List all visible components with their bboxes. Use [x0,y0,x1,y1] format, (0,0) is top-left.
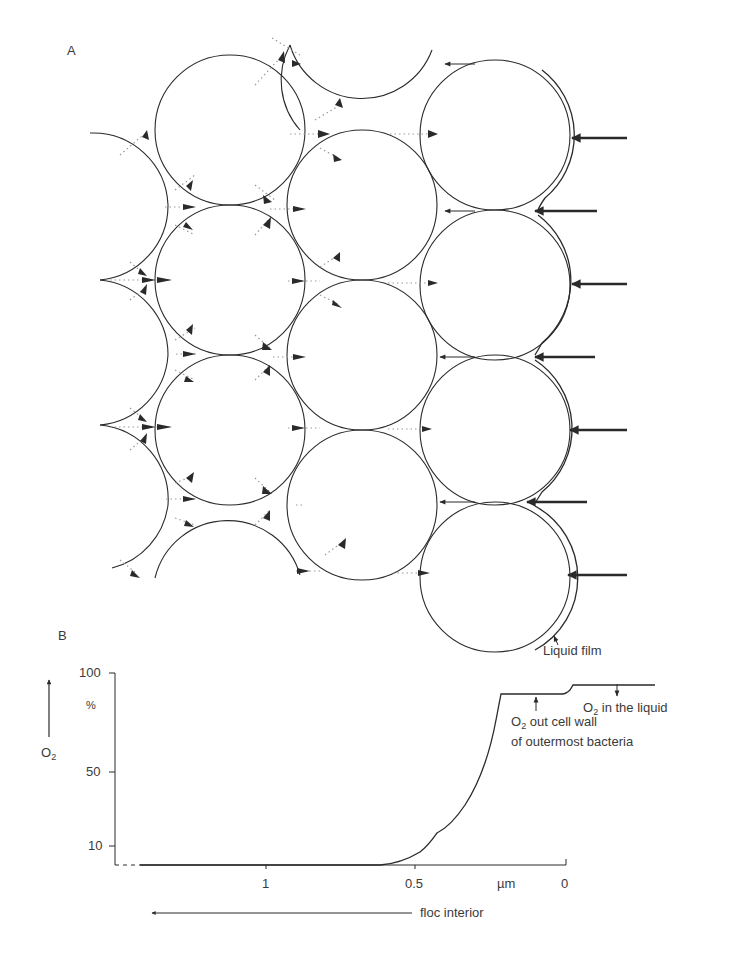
cellwall-o2-annotation: O2 out cell wall of outermost bacteria [511,714,633,749]
floc-cells [90,45,570,652]
y-tick-label-50: 50 [86,764,100,779]
panel-a-label: A [67,43,76,58]
x-axis [115,859,566,869]
panel-b-label: B [58,628,67,643]
cellwall-o2-line1: O2 out cell wall [511,714,633,734]
y-axis-title-sub: 2 [51,752,56,762]
bacterium-cell [155,205,305,355]
floc-interior-label: floc interior [420,905,484,920]
partial-cell-bottom-col1 [155,521,300,578]
y-axis-title-main: O [41,745,51,760]
cellwall-o2-line2: of outermost bacteria [511,734,633,749]
y-tick-label-100: 100 [79,665,101,680]
bacterium-cell [155,55,305,205]
y-axis-title: O2 [41,745,56,762]
bacterium-cell [420,502,570,652]
bacterium-cell [287,280,437,430]
diffusion-arrows [440,64,475,502]
bacterium-cell [155,355,305,505]
dotted-diffusion-arrows [110,38,435,573]
x-tick-label-1: 1 [262,876,269,891]
partial-cell-left-top-lower [100,205,168,280]
bacterium-cell [420,60,570,210]
o2-profile-curve [140,685,655,865]
partial-cell-top-col2 [290,45,432,98]
y-tick-label-10: 10 [88,838,102,853]
bacterium-cell [287,130,437,280]
x-tick-label-0-5: 0.5 [405,876,423,891]
liquid-film-label: Liquid film [543,643,602,658]
x-unit-label: µm [497,876,515,891]
y-axis [109,673,115,865]
bacterium-cell [420,355,570,505]
liquid-film [535,70,578,650]
bacterium-cell [287,430,437,580]
diagram-canvas [0,0,730,961]
y-unit-label: % [86,699,96,711]
x-tick-label-0: 0 [561,876,568,891]
